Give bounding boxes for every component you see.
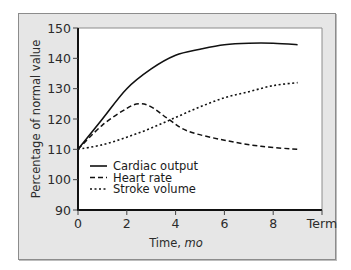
legend-label: Stroke volume — [113, 182, 196, 196]
x-tick-label: 6 — [220, 216, 228, 231]
y-tick-label: 90 — [55, 203, 71, 218]
y-tick-label: 150 — [47, 21, 71, 36]
line-chart: 90100110120130140150 02468Term Cardiac o… — [0, 0, 351, 270]
y-tick-label: 100 — [47, 172, 71, 187]
y-tick-label: 110 — [47, 142, 71, 157]
y-axis-title: Percentage of normal value — [29, 40, 43, 198]
x-tick-label: 4 — [172, 216, 180, 231]
x-tick-label: Term — [306, 216, 337, 231]
y-tick-label: 130 — [47, 81, 71, 96]
x-axis-title: Time, mo — [148, 236, 203, 250]
x-tick-label: 8 — [269, 216, 277, 231]
x-axis: 02468Term — [74, 210, 337, 231]
x-tick-label: 2 — [123, 216, 131, 231]
y-axis: 90100110120130140150 — [47, 21, 78, 218]
y-tick-label: 140 — [47, 51, 71, 66]
x-tick-label: 0 — [74, 216, 82, 231]
y-tick-label: 120 — [47, 112, 71, 127]
